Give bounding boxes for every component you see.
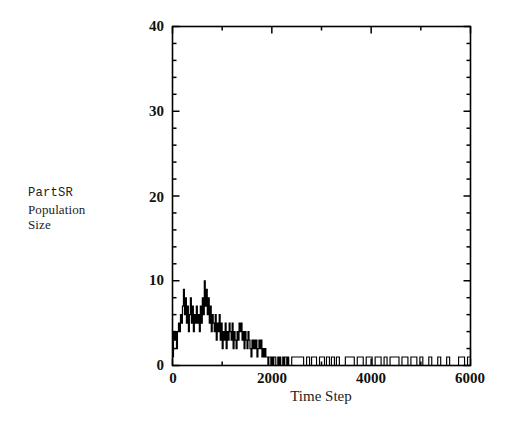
x-tick-label-6000: 6000 <box>435 370 505 387</box>
x-tick-label-0: 0 <box>138 370 208 387</box>
axis-ticks <box>173 27 471 366</box>
x-tick-label-4000: 4000 <box>336 370 406 387</box>
y-tick-label-30: 30 <box>124 103 164 120</box>
y-tick-label-40: 40 <box>124 18 164 35</box>
plot-frame <box>173 27 471 366</box>
x-axis-title: Time Step <box>221 388 421 405</box>
y-tick-label-10: 10 <box>124 272 164 289</box>
y-tick-label-20: 20 <box>124 189 164 206</box>
chart-figure: PartSR Population Size 40 30 20 10 0 0 2… <box>0 0 515 428</box>
y-axis-title-line-3: Size <box>28 217 148 233</box>
data-series-line <box>173 281 471 366</box>
x-tick-label-2000: 2000 <box>237 370 307 387</box>
